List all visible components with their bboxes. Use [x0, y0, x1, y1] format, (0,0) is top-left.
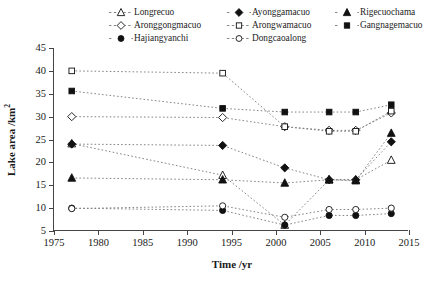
y-axis-title-superscript: 2 [3, 104, 12, 108]
data-point-marker [220, 106, 226, 112]
data-point-marker [282, 222, 288, 228]
data-series [69, 88, 394, 115]
series-line [72, 133, 392, 183]
data-point-marker [326, 212, 332, 218]
data-point-marker [325, 176, 333, 184]
legend-label: Ayonggamacuo [252, 6, 310, 19]
data-point-marker [69, 68, 75, 74]
x-axis-tick [276, 230, 277, 235]
legend-label: Arongwamacuo [252, 19, 311, 32]
x-axis-tick [98, 230, 99, 235]
chart-legend: LongrecuoAyonggamacuoRigecuochamaAronggo… [108, 6, 436, 45]
x-axis-tick-label: 2000 [265, 238, 286, 249]
x-axis-tick-label: 2005 [310, 238, 331, 249]
series-line [72, 206, 392, 217]
data-point-marker [282, 109, 288, 115]
data-point-marker [219, 141, 227, 149]
legend-item-dongcaoalong[interactable]: Dongcaoalong [226, 32, 334, 45]
y-axis-tick-label: 15 [36, 180, 47, 191]
series-line [72, 144, 392, 225]
legend-item-hajiangyanchi[interactable]: Hajiangyanchi [108, 32, 226, 45]
y-axis-tick [49, 208, 54, 209]
legend-label: Rigecuochama [360, 6, 415, 19]
data-series [69, 68, 394, 134]
x-axis-tick-label: 2010 [354, 238, 375, 249]
series-line [72, 113, 392, 130]
legend-spacer [334, 32, 436, 45]
legend-marker-diamond-filled-icon [226, 6, 252, 19]
legend-item-rigecuochama[interactable]: Rigecuochama [334, 6, 436, 19]
x-axis-tick-label: 2015 [399, 238, 420, 249]
plot-area: 51015202530354045 1975198019851990199520… [53, 48, 408, 231]
legend-item-aronggongmacuo[interactable]: Aronggongmacuo [108, 19, 226, 32]
data-point-marker [220, 207, 226, 213]
y-axis-tick-label: 25 [36, 134, 47, 145]
data-point-marker [68, 139, 76, 146]
x-axis-tick [409, 230, 410, 235]
data-point-marker [281, 179, 289, 186]
legend-marker-square-open-icon [226, 19, 252, 32]
y-axis-tick-label: 5 [41, 226, 46, 237]
data-point-marker [68, 174, 76, 181]
y-axis-tick [49, 71, 54, 72]
legend-item-ayonggamacuo[interactable]: Ayonggamacuo [226, 6, 334, 19]
data-point-marker [388, 108, 394, 114]
data-point-marker [388, 205, 394, 211]
y-axis-tick [49, 140, 54, 141]
legend-marker-circle-filled-icon [108, 32, 134, 45]
data-point-marker [326, 128, 332, 134]
data-point-marker [353, 109, 359, 115]
y-axis-tick-label: 45 [36, 43, 47, 54]
x-axis-tick-label: 1995 [221, 238, 242, 249]
data-point-marker [281, 221, 289, 228]
data-point-marker [68, 140, 76, 148]
y-axis-tick-label: 10 [36, 203, 47, 214]
x-axis-title: Time /yr [212, 258, 252, 270]
data-point-marker [69, 205, 75, 211]
data-point-marker [325, 126, 333, 134]
data-point-marker [353, 212, 359, 218]
data-point-marker [387, 156, 395, 163]
data-point-marker [219, 176, 227, 183]
data-series [68, 139, 395, 228]
data-point-marker [387, 138, 395, 146]
data-point-marker [325, 176, 333, 183]
data-point-marker [68, 113, 76, 121]
y-axis-title-text: Lake area /km [5, 108, 17, 176]
data-series [69, 203, 395, 221]
y-axis-tick [49, 48, 54, 49]
legend-label: Hajiangyanchi [134, 32, 188, 45]
data-point-marker [353, 128, 359, 134]
x-axis-tick [320, 230, 321, 235]
data-point-marker [326, 109, 332, 115]
legend-item-longrecuo[interactable]: Longrecuo [108, 6, 226, 19]
x-axis-tick-label: 1985 [132, 238, 153, 249]
data-point-marker [282, 214, 288, 220]
legend-item-gangnagemacuo[interactable]: Gangnagemacuo [334, 19, 436, 32]
x-axis-tick [232, 230, 233, 235]
legend-marker-circle-open-icon [226, 32, 252, 45]
y-axis-tick [49, 94, 54, 95]
data-point-marker [219, 171, 227, 178]
data-point-marker [219, 113, 227, 121]
legend-item-arongwamacuo[interactable]: Arongwamacuo [226, 19, 334, 32]
legend-label: Aronggongmacuo [134, 19, 201, 32]
data-point-marker [326, 206, 332, 212]
legend-label: Longrecuo [134, 6, 174, 19]
data-point-marker [282, 124, 288, 130]
y-axis-title: Lake area /km2 [3, 104, 17, 176]
series-line [72, 208, 392, 225]
x-axis-tick [187, 230, 188, 235]
data-point-marker [352, 176, 360, 184]
data-point-marker [387, 109, 395, 117]
x-axis-tick [143, 230, 144, 235]
legend-label: Gangnagemacuo [360, 19, 422, 32]
data-point-marker [220, 203, 226, 209]
chart-container: LongrecuoAyonggamacuoRigecuochamaAronggo… [0, 0, 445, 282]
x-axis-tick-label: 1990 [177, 238, 198, 249]
series-line [72, 142, 392, 180]
x-axis-tick-label: 1980 [88, 238, 109, 249]
data-point-marker [69, 205, 75, 211]
x-axis-tick [54, 230, 55, 235]
data-series [68, 138, 396, 184]
